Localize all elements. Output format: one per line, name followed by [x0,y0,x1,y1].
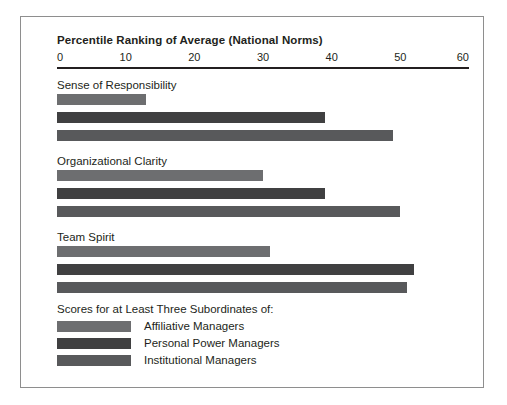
chart-plot-area: Percentile Ranking of Average (National … [57,33,469,377]
bar [57,282,407,293]
bar-group: Organizational Clarity [57,148,469,217]
chart-title: Percentile Ranking of Average (National … [57,33,469,47]
legend-title: Scores for at Least Three Subordinates o… [57,302,469,317]
chart-legend: Scores for at Least Three Subordinates o… [57,302,469,367]
bar [57,112,325,123]
legend-item: Institutional Managers [57,354,469,367]
legend-swatch [57,321,131,332]
bar-row [57,130,469,141]
bar-row [57,282,469,293]
bar-group: Sense of Responsibility [57,72,469,141]
x-axis-tick-label: 10 [120,50,132,64]
bar [57,130,393,141]
bar-group-label: Organizational Clarity [57,148,469,170]
bar [57,94,146,105]
bar-group-label: Team Spirit [57,224,469,246]
x-axis-tick-label: 60 [457,50,469,64]
x-axis-tick-label: 20 [188,50,200,64]
legend-label: Affiliative Managers [144,320,244,333]
legend-swatch [57,338,131,349]
bar-groups: Sense of ResponsibilityOrganizational Cl… [57,72,469,293]
legend-item: Affiliative Managers [57,320,469,333]
legend-item: Personal Power Managers [57,337,469,350]
bar-group-label: Sense of Responsibility [57,72,469,94]
bar-row [57,94,469,105]
bar [57,264,414,275]
legend-rows: Affiliative ManagersPersonal Power Manag… [57,320,469,367]
x-axis-tick-label: 0 [57,50,63,64]
chart-frame: Percentile Ranking of Average (National … [20,16,484,388]
x-axis-tick-label: 30 [257,50,269,64]
bar-row [57,264,469,275]
bar-row [57,188,469,199]
bar [57,206,400,217]
bar-row [57,112,469,123]
x-axis-rule [57,67,469,69]
legend-swatch [57,355,131,366]
bar [57,188,325,199]
bar [57,170,263,181]
bar [57,246,270,257]
x-axis-tick-label: 40 [326,50,338,64]
x-axis-tick-label: 50 [394,50,406,64]
legend-label: Personal Power Managers [144,337,280,350]
bar-group: Team Spirit [57,224,469,293]
bar-row [57,170,469,181]
x-axis: 0102030405060 [57,50,469,72]
bar-row [57,206,469,217]
legend-label: Institutional Managers [144,354,257,367]
bar-row [57,246,469,257]
